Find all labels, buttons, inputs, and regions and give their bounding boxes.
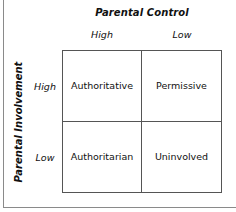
column-label-high: High: [62, 29, 142, 40]
row-label-high: High: [30, 81, 60, 92]
column-axis-title: Parental Control: [62, 7, 222, 18]
cell-permissive: Permissive: [142, 51, 221, 122]
cell-uninvolved: Uninvolved: [142, 122, 221, 193]
row-axis-title: Parental Involvement: [13, 62, 24, 183]
parenting-style-matrix: Authoritative Permissive Authoritarian U…: [62, 50, 222, 193]
column-label-low: Low: [142, 29, 222, 40]
cell-authoritative: Authoritative: [63, 51, 142, 122]
frame-left-border: [3, 0, 4, 208]
row-label-low: Low: [30, 152, 60, 163]
frame-bottom-border: [3, 207, 236, 208]
cell-authoritarian: Authoritarian: [63, 122, 142, 193]
